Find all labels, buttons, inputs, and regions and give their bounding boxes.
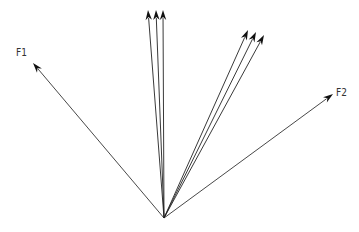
- vector-v6: [164, 35, 264, 218]
- vector-v2: [153, 10, 164, 218]
- vector-shaft: [164, 42, 260, 218]
- vector-shaft: [164, 39, 252, 218]
- label-f1: F1: [16, 46, 27, 59]
- arrowhead-icon: [323, 94, 333, 102]
- vector-F2: [164, 94, 333, 218]
- vector-shaft: [164, 99, 327, 218]
- arrowhead-icon: [249, 32, 256, 42]
- label-f2: F2: [336, 86, 347, 99]
- vector-v4: [164, 30, 248, 218]
- vector-shaft: [164, 37, 245, 218]
- arrowhead-icon: [256, 35, 264, 45]
- vector-shaft: [149, 18, 164, 218]
- vector-v5: [164, 32, 256, 218]
- force-vector-diagram: [0, 0, 359, 232]
- vector-v1: [146, 10, 164, 218]
- arrowhead-icon: [33, 63, 42, 73]
- vector-F1: [33, 63, 164, 218]
- vector-shaft: [38, 69, 164, 218]
